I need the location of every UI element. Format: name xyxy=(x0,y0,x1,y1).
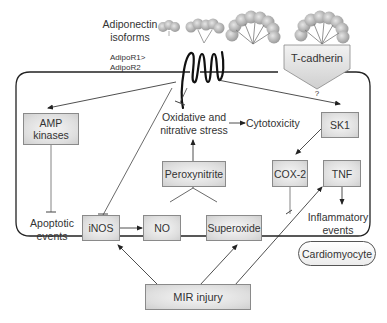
adipor-label: AdipoR1> AdipoR2 xyxy=(110,53,170,73)
events-text: events xyxy=(25,230,79,243)
no-node: NO xyxy=(143,215,181,241)
oxidative-text: Oxidative and xyxy=(158,111,230,124)
peroxynitrite-node: Peroxynitrite xyxy=(162,161,226,187)
inflammatory-text: Inflammatory xyxy=(305,211,371,224)
inos-node: iNOS xyxy=(82,215,120,241)
cox2-node: COX-2 xyxy=(272,160,308,187)
cytotoxicity-label: Cytotoxicity xyxy=(246,117,302,130)
adiponectin-hmw-tcadherin-icon xyxy=(295,11,350,45)
t-cadherin-label: T-cadherin xyxy=(284,52,350,65)
adiponectin-hmw-icon xyxy=(226,11,281,45)
apoptotic-events-label: Apoptotic events xyxy=(25,217,79,242)
adipor1-text: AdipoR1> xyxy=(110,53,170,63)
adipor2-text: AdipoR2 xyxy=(110,63,170,73)
amp-kinases-node: AMP kinases xyxy=(23,113,79,145)
kinases-text: kinases xyxy=(33,129,69,141)
sk1-node: SK1 xyxy=(321,112,359,138)
apoptotic-text: Apoptotic xyxy=(25,217,79,230)
adipor-receptor-icon xyxy=(181,52,223,108)
adiponectin-hexamer-icon xyxy=(186,19,225,44)
superoxide-node: Superoxide xyxy=(206,215,262,241)
inflammatory-events-text: events xyxy=(305,224,371,237)
adiponectin-text: Adiponectin xyxy=(100,18,160,31)
unknown-question-label: ? xyxy=(312,88,322,101)
cardiomyocyte-label: Cardiomyocyte xyxy=(298,241,376,266)
inflammatory-events-label: Inflammatory events xyxy=(305,211,371,236)
nitrative-text: nitrative stress xyxy=(158,124,230,137)
mir-injury-node: MIR injury xyxy=(145,284,251,310)
adiponectin-monomer-icon xyxy=(158,20,180,36)
oxidative-nitrative-stress-label: Oxidative and nitrative stress xyxy=(158,111,230,136)
amp-text: AMP xyxy=(40,117,63,129)
isoforms-text: isoforms xyxy=(100,31,160,44)
adiponectin-isoforms-label: Adiponectin isoforms xyxy=(100,18,160,43)
tnf-node: TNF xyxy=(323,160,361,187)
